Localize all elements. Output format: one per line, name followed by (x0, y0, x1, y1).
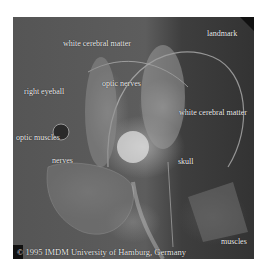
label-white-cerebral-matter-right: white cerebral matter (179, 109, 247, 117)
left-eyeball (117, 131, 149, 163)
label-nerves: nerves (52, 157, 73, 165)
label-optic-muscles: optic muscles (16, 134, 60, 142)
label-right-eyeball: right eyeball (24, 88, 64, 96)
label-white-cerebral-matter-top: white cerebral matter (63, 40, 131, 48)
label-landmark: landmark (207, 30, 237, 38)
left-hemisphere (85, 57, 117, 167)
support-line (168, 162, 173, 247)
copyright-credit: © 1995 IMDM University of Hamburg, Germa… (17, 248, 186, 257)
jaw (47, 163, 134, 234)
right-hemisphere (141, 45, 185, 149)
corner-shadow (240, 17, 254, 31)
neck-muscle (188, 182, 248, 242)
label-skull: skull (178, 158, 194, 166)
label-optic-nerves: optic nerves (102, 80, 141, 88)
label-muscles: muscles (221, 238, 247, 246)
